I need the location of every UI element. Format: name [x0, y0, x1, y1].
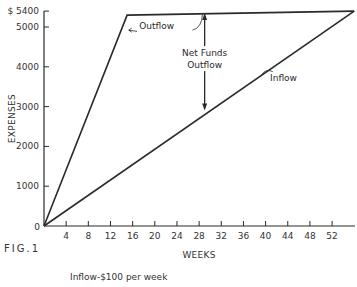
line-chart: 10002000300040005000$ 540004812162024283… — [0, 0, 357, 260]
x-tick-label: 8 — [85, 231, 91, 241]
net-funds-label-line1: Net Funds — [182, 48, 227, 58]
x-tick-label: 36 — [238, 231, 250, 241]
x-tick-label: 12 — [105, 231, 116, 241]
y-tick-label: 0 — [34, 222, 40, 232]
y-tick-label: 5000 — [16, 22, 39, 32]
x-axis-title: WEEKS — [182, 250, 215, 260]
x-tick-label: 52 — [326, 231, 337, 241]
net-funds-label-line2: Outflow — [187, 60, 222, 70]
figure-label: FIG.1 — [4, 243, 40, 254]
x-tick-label: 40 — [260, 231, 272, 241]
x-tick-label: 28 — [193, 231, 205, 241]
x-tick-label: 20 — [149, 231, 161, 241]
x-tick-label: 4 — [63, 231, 69, 241]
y-tick-label: $ 5400 — [8, 6, 40, 16]
caption: Inflow-$100 per week — [70, 272, 167, 282]
y-tick-label: 2000 — [16, 141, 39, 151]
series-inflow — [44, 11, 354, 226]
outflow-leader-curve — [192, 14, 202, 30]
outflow-label: Outflow — [139, 21, 174, 31]
x-tick-label: 16 — [127, 231, 139, 241]
x-tick-label: 32 — [216, 231, 227, 241]
arrow-down-icon — [202, 104, 207, 111]
x-tick-label: 48 — [304, 231, 316, 241]
x-tick-label: 44 — [282, 231, 294, 241]
inflow-label: Inflow — [270, 73, 297, 83]
y-tick-label: 3000 — [16, 102, 39, 112]
y-axis-title: EXPENSES — [7, 94, 17, 143]
x-tick-label: 24 — [171, 231, 183, 241]
y-tick-label: 1000 — [16, 181, 39, 191]
y-tick-label: 4000 — [16, 62, 39, 72]
